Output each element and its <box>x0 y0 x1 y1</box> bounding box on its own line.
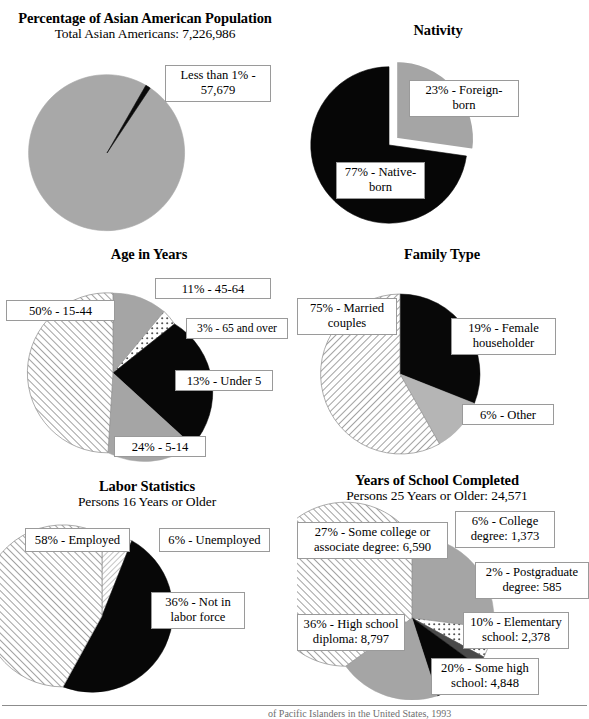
chart-years-of-school-completed: Years of School Completed Persons 25 Yea… <box>297 472 589 700</box>
callout-other: 6% - Other <box>462 404 554 425</box>
callout-not-in-labor-force: 36% - Not in labor force <box>151 592 245 629</box>
pie-chart-years-of-school-completed: 27% - Some college or associate degree: … <box>297 472 589 700</box>
chart-labor-statistics: Labor Statistics Persons 16 Years or Old… <box>0 478 290 700</box>
chart-family-type: Family Type 75% - Married couples 19% - … <box>297 246 589 472</box>
pie-chart-labor-statistics: 58% - Employed 6% - Unemployed 36% - Not… <box>0 478 290 700</box>
chart-asian-american-population: Percentage of Asian American Population … <box>0 10 290 240</box>
callout-postgraduate-degree: 2% - Postgraduate degree: 585 <box>475 562 589 599</box>
pie-chart-asian-american-population: Less than 1% - 57,679 <box>0 10 290 240</box>
pie-chart-family-type: 75% - Married couples 19% - Female house… <box>297 246 589 472</box>
callout-college-degree: 6% - College degree: 1,373 <box>455 511 555 548</box>
callout-15-44: 50% - 15-44 <box>6 300 115 321</box>
footnote-text: of Pacific Islanders in the United State… <box>268 708 451 719</box>
callout-foreign-born: 23% - Foreign-born <box>409 80 519 117</box>
chart-age-in-years: Age in Years 11% - 45-64 50% - 15-44 3% … <box>0 246 290 472</box>
callout-45-64: 11% - 45-64 <box>155 278 271 299</box>
pie-chart-age-in-years: 11% - 45-64 50% - 15-44 3% - 65 and over… <box>0 246 290 472</box>
callout-some-college: 27% - Some college or associate degree: … <box>297 522 448 559</box>
callout-high-school-diploma: 36% - High school diploma: 8,797 <box>297 614 405 651</box>
callout-employed: 58% - Employed <box>25 528 130 552</box>
callout-female-householder: 19% - Female householder <box>451 318 556 355</box>
callout-less-than-1-percent: Less than 1% - 57,679 <box>165 65 271 102</box>
callout-unemployed: 6% - Unemployed <box>159 528 270 552</box>
pie-chart-nativity: 23% - Foreign-born 77% - Native-born <box>297 22 589 240</box>
callout-elementary-school: 10% - Elementary school: 2,378 <box>463 612 569 649</box>
callout-married-couples: 75% - Married couples <box>297 298 397 335</box>
footer-divider <box>2 705 587 706</box>
callout-under-5: 13% - Under 5 <box>175 370 273 391</box>
callout-5-14: 24% - 5-14 <box>114 436 206 457</box>
callout-native-born: 77% - Native-born <box>336 162 425 199</box>
pie-slice-asian-americans <box>29 75 185 231</box>
chart-nativity: Nativity 23% - Foreign-born 77% - Native… <box>297 22 589 240</box>
callout-65-and-over: 3% - 65 and over <box>186 318 288 339</box>
callout-some-high-school: 20% - Some high school: 4,848 <box>431 658 539 695</box>
